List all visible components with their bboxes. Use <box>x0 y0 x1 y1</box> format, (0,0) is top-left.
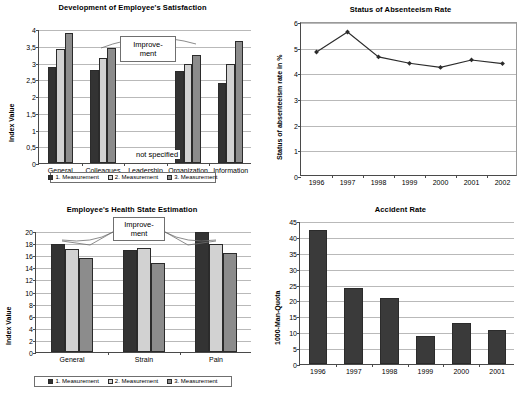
bar <box>48 67 57 163</box>
legend-label: 1. Measurement <box>55 378 98 385</box>
chart-title: Status of Absenteeism Rate <box>293 5 508 15</box>
y-axis-tickmark <box>297 365 300 366</box>
gridline <box>300 270 514 271</box>
x-axis-tick: 2002 <box>495 179 511 187</box>
gridline <box>300 349 514 350</box>
y-axis-tickmark <box>33 293 36 294</box>
bar <box>79 258 93 352</box>
legend-label: 2. Measurement <box>115 378 158 385</box>
y-axis-tick: 2,5 <box>26 77 36 84</box>
y-axis-tickmark <box>33 305 36 306</box>
gridline <box>300 301 514 302</box>
y-axis-tickmark <box>36 64 39 65</box>
x-axis-tickmark <box>124 163 125 166</box>
legend-label: 3. Measurement <box>174 378 217 385</box>
bar <box>226 64 235 163</box>
legend-item-1: 1. Measurement <box>48 174 98 181</box>
improvement-label-line1: Improve- <box>124 220 154 229</box>
bar <box>56 49 65 163</box>
chart-title: Employee's Health State Estimation <box>18 205 246 215</box>
bar <box>99 58 108 163</box>
bar <box>65 249 79 352</box>
y-axis-tick: 30 <box>289 266 297 273</box>
x-axis-tick: 2000 <box>453 368 469 376</box>
x-axis-tick: 1999 <box>402 179 418 187</box>
y-axis-tick: 45 <box>289 219 297 226</box>
gridline <box>300 238 514 239</box>
improvement-label-line2: ment <box>140 49 157 58</box>
bar <box>218 83 227 163</box>
y-axis-tick: 20 <box>289 298 297 305</box>
bar <box>107 48 116 163</box>
gridline <box>300 333 514 334</box>
legend-item-2: 2. Measurement <box>108 174 158 181</box>
legend-item-1: 1. Measurement <box>48 378 98 385</box>
plot-frame: 01234561996199719981999200020012002 <box>300 22 517 176</box>
y-axis-tickmark <box>36 47 39 48</box>
x-axis-tickmark <box>408 364 409 367</box>
improvement-label-line1: Improve- <box>133 40 163 49</box>
y-axis-tick: 40 <box>289 234 297 241</box>
x-axis-tickmark <box>82 163 83 166</box>
data-point-marker <box>438 65 443 70</box>
bar <box>209 244 223 352</box>
y-axis-tickmark <box>33 317 36 318</box>
y-axis-tickmark <box>297 301 300 302</box>
gridline <box>300 222 514 223</box>
x-axis-tickmark <box>443 364 444 367</box>
y-axis-tickmark <box>297 333 300 334</box>
x-axis-tickmark <box>167 163 168 166</box>
bar <box>235 41 244 163</box>
y-axis-tick: 3,5 <box>26 43 36 50</box>
plot-frame: 0510152025303540451996199719981999200020… <box>299 222 514 365</box>
figure-sheet: Development of Employee's Satisfaction I… <box>0 0 526 400</box>
bar <box>195 232 209 352</box>
chart-title: Development of Employee's Satisfaction <box>20 3 245 13</box>
y-axis-tickmark <box>36 164 39 165</box>
bar <box>223 253 237 352</box>
x-axis-tick: Information <box>213 167 248 175</box>
y-axis-tickmark <box>36 147 39 148</box>
x-axis-tick: Strain <box>135 356 153 364</box>
bar <box>51 244 65 352</box>
y-axis-tickmark <box>36 114 39 115</box>
bar <box>416 336 435 364</box>
y-axis-tickmark <box>297 222 300 223</box>
legend-label: 3. Measurement <box>174 174 217 181</box>
legend: 1. Measurement 2. Measurement 3. Measure… <box>34 376 232 387</box>
gridline <box>300 286 514 287</box>
y-axis-tickmark <box>297 270 300 271</box>
bar <box>65 33 74 163</box>
legend-label: 1. Measurement <box>55 174 98 181</box>
bar <box>151 263 165 352</box>
x-axis-tick: 1997 <box>340 179 356 187</box>
x-axis-tickmark <box>108 352 109 355</box>
not-specified-note: not specified <box>134 150 180 159</box>
y-axis-tickmark <box>33 353 36 354</box>
x-axis-tickmark <box>479 364 480 367</box>
improvement-callout: Improve- ment <box>113 217 165 241</box>
y-axis-tick: 0,5 <box>26 144 36 151</box>
legend-item-3: 3. Measurement <box>167 174 217 181</box>
y-axis-tickmark <box>36 30 39 31</box>
x-axis-tick: 2001 <box>489 368 505 376</box>
x-axis-tick: 1997 <box>346 368 362 376</box>
y-axis-tick: 1,5 <box>26 110 36 117</box>
bar <box>309 230 328 364</box>
gridline <box>300 317 514 318</box>
x-axis-tick: 1998 <box>371 179 387 187</box>
data-point-marker <box>407 61 412 66</box>
y-axis-label: 1000-Man-Quota <box>274 291 281 345</box>
x-axis-tick: 1996 <box>309 179 325 187</box>
bar <box>90 70 99 163</box>
y-axis-tickmark <box>33 280 36 281</box>
y-axis-tick: 15 <box>289 314 297 321</box>
legend-swatch-icon <box>167 379 172 384</box>
chart-accident-rate: Accident Rate 1000-Man-Quota 05101520253… <box>263 200 526 400</box>
x-axis-tick: 1998 <box>382 368 398 376</box>
x-axis-tickmark <box>180 352 181 355</box>
y-axis-tickmark <box>297 238 300 239</box>
y-axis-tickmark <box>36 80 39 81</box>
improvement-label-line2: ment <box>131 229 148 238</box>
line-series <box>301 23 518 177</box>
